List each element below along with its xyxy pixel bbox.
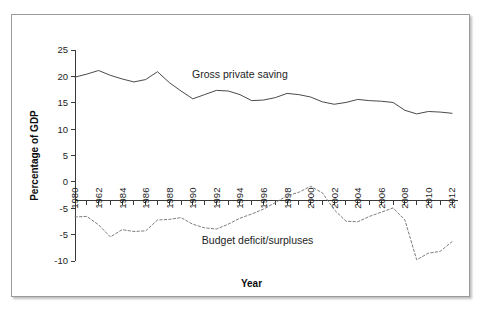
x-axis-tick-label: 1992 <box>211 188 222 209</box>
y-axis-tick-label: 5 <box>63 150 68 161</box>
x-axis-tick-label: 1988 <box>164 188 175 209</box>
x-axis-tick-label: 1980 <box>70 188 81 209</box>
x-axis-tick-label: 1962 <box>93 188 104 209</box>
y-axis-tick-label: -5 <box>60 203 68 214</box>
y-axis-tick-label: 20 <box>57 71 68 82</box>
x-axis-tick-label: 2008 <box>399 188 410 209</box>
x-axis-tick-label: 1986 <box>140 188 151 209</box>
x-axis-tick-label: 2000 <box>305 188 316 209</box>
y-axis-tick-label: -5 <box>60 229 68 240</box>
x-axis-tick-label: 2010 <box>423 188 434 209</box>
x-axis-tick-label: 2012 <box>447 188 458 209</box>
line-chart: 2520151050-5-5-1019801962198419861988199… <box>12 15 469 296</box>
x-axis-title: Year <box>241 278 262 289</box>
y-axis-tick-label: 15 <box>57 97 68 108</box>
y-axis-tick-label: -10 <box>54 255 68 266</box>
x-axis-tick-label: 2006 <box>376 188 387 209</box>
x-axis-tick-label: 1994 <box>234 188 245 209</box>
x-axis-tick-label: 1984 <box>117 188 128 209</box>
x-axis-tick-label: 2004 <box>352 188 363 209</box>
y-axis-title: Percentage of GDP <box>29 110 40 201</box>
y-axis-tick-label: 25 <box>57 44 68 55</box>
annotation-budget-deficit-surpluses: Budget deficit/surpluses <box>202 234 313 246</box>
y-axis-tick-label: 10 <box>57 124 68 135</box>
x-axis-tick-label: 2002 <box>329 188 340 209</box>
annotation-gross-private-saving: Gross private saving <box>192 68 288 80</box>
x-axis-tick-label: 1990 <box>187 188 198 209</box>
x-axis-tick-label: 1996 <box>258 188 269 209</box>
y-axis-tick-label: 0 <box>63 176 68 187</box>
chart-plot-area: 2520151050-5-5-1019801962198419861988199… <box>12 15 469 296</box>
figure-frame: 2520151050-5-5-1019801962198419861988199… <box>11 14 470 297</box>
